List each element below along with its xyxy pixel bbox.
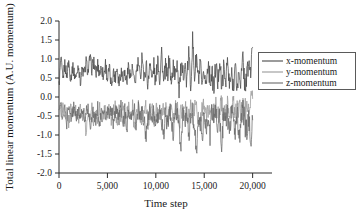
legend-items[interactable]: x-momentumy-momentumz-momentum [262, 56, 338, 88]
y-tick-label: 1.0 [40, 54, 52, 64]
x-tick-label: 5,000 [97, 181, 119, 191]
x-tick-label: 15,000 [191, 181, 217, 191]
momentum-line-chart: Total linear momentum (A.U. momentum) Ti… [0, 0, 363, 221]
legend-label-z-momentum[interactable]: z-momentum [286, 78, 337, 88]
legend-label-y-momentum[interactable]: y-momentum [286, 67, 338, 77]
x-tick-label: 10,000 [143, 181, 169, 191]
x-tick-label: 0 [57, 181, 62, 191]
y-tick-label: -1.0 [37, 130, 52, 140]
legend-label-x-momentum[interactable]: x-momentum [286, 56, 338, 66]
x-tick-label: 20,000 [240, 181, 266, 191]
y-tick-label: 0.5 [40, 73, 52, 83]
x-axis-title: Time step [144, 197, 188, 209]
y-tick-label: 1.5 [40, 35, 52, 45]
y-tick-label: -1.5 [37, 149, 52, 159]
y-axis-title: Total linear momentum (A.U. momentum) [3, 3, 16, 191]
y-tick-label: -0.5 [37, 111, 52, 121]
y-tick-label: 2.0 [40, 16, 52, 26]
y-tick-label: -2.0 [37, 168, 52, 178]
y-tick-label: 0.0 [40, 92, 52, 102]
